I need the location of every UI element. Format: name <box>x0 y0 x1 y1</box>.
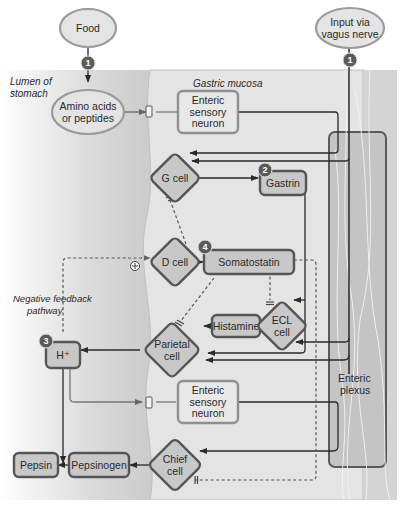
sensory1-label: neuron <box>192 117 225 129</box>
amino-label: or peptides <box>62 112 114 124</box>
node-somatostatin: Somatostatin <box>204 250 294 274</box>
sensory1-label: sensory <box>190 106 228 118</box>
node-pepsinogen: Pepsinogen <box>69 453 129 477</box>
sensory2-label: Enteric <box>192 384 225 396</box>
node-histamine: Histamine <box>212 315 260 337</box>
gastric-secretion-diagram: Lumen of stomach Gastric mucosa Enteric … <box>0 0 405 520</box>
node-amino: Amino acidsor peptides <box>52 90 124 134</box>
plexus-label-line2: plexus <box>340 384 370 396</box>
sensory2-label: neuron <box>192 407 225 419</box>
node-vagus: Input viavagus nerve <box>316 8 384 48</box>
lumen-label-line2: stomach <box>10 88 48 99</box>
svg-text:2: 2 <box>262 165 267 175</box>
histamine-label: Histamine <box>213 320 260 332</box>
ecl-label: cell <box>274 326 290 338</box>
step-badge-1: 1 <box>343 53 357 67</box>
feedback-label-line2: pathway <box>26 305 64 316</box>
node-food: Food <box>60 9 116 47</box>
amino-label: Amino acids <box>59 100 116 112</box>
sensory2-label: sensory <box>190 396 228 408</box>
vagus-label: vagus nerve <box>321 28 378 40</box>
sensory1-label: Enteric <box>192 94 225 106</box>
lumen-label-line1: Lumen of <box>10 76 53 87</box>
step-badge-2: 2 <box>258 163 272 177</box>
dcell-label: D cell <box>162 256 188 268</box>
pepsin-label: Pepsin <box>20 459 52 471</box>
svg-text:1: 1 <box>347 55 352 65</box>
stimulate-plus-icon <box>131 262 140 271</box>
receptor-amino <box>146 106 152 117</box>
gcell-label: G cell <box>162 172 189 184</box>
step-badge-4: 4 <box>198 240 212 254</box>
svg-text:4: 4 <box>202 242 207 252</box>
node-pepsin: Pepsin <box>14 453 58 477</box>
parietal-label: cell <box>164 350 180 362</box>
hplus-label: H⁺ <box>56 349 70 361</box>
gastrin-label: Gastrin <box>266 177 300 189</box>
node-sensory1: Entericsensoryneuron <box>178 91 238 133</box>
mucosa-label: Gastric mucosa <box>193 78 263 89</box>
step-badge-1: 1 <box>81 56 95 70</box>
chief-label: cell <box>167 465 183 477</box>
somatostatin-label: Somatostatin <box>218 256 279 268</box>
plexus-label-line1: Enteric <box>338 372 371 384</box>
node-sensory2: Entericsensoryneuron <box>178 381 238 423</box>
svg-text:3: 3 <box>43 336 48 346</box>
step-badge-3: 3 <box>39 334 53 348</box>
food-label: Food <box>76 22 100 34</box>
feedback-label-line1: Negative feedback <box>13 293 93 304</box>
vagus-label: Input via <box>330 16 370 28</box>
svg-text:1: 1 <box>85 58 90 68</box>
ecl-label: ECL <box>272 314 293 326</box>
pepsinogen-label: Pepsinogen <box>71 459 127 471</box>
receptor-hplus <box>146 397 152 408</box>
parietal-label: Parietal <box>154 338 190 350</box>
chief-label: Chief <box>163 453 188 465</box>
